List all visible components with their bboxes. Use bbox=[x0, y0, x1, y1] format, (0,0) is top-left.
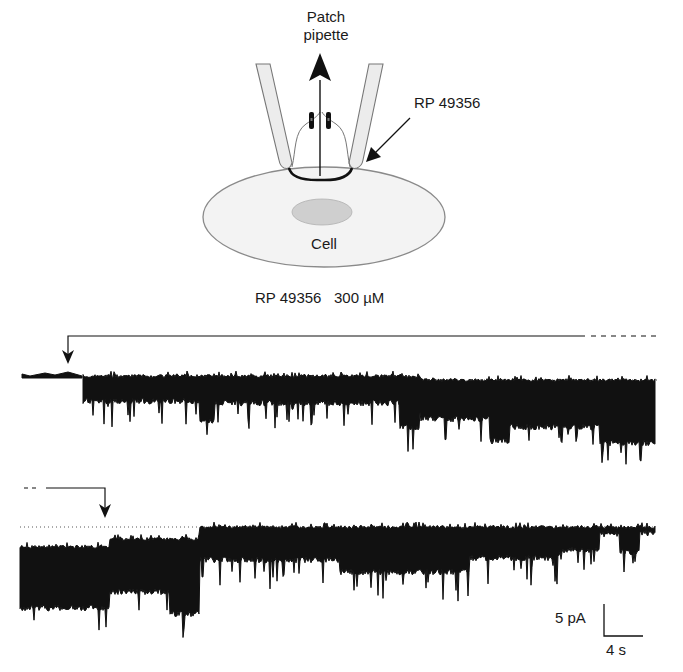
pipette-label-line2: pipette bbox=[290, 26, 362, 43]
cell-label: Cell bbox=[294, 235, 354, 252]
pipette-left-wall bbox=[256, 64, 292, 168]
drug-concentration-label: RP 49356 300 µM bbox=[255, 289, 384, 306]
compound-label: RP 49356 bbox=[414, 94, 480, 111]
membrane-patch-outline bbox=[292, 112, 350, 167]
pipette-right-wall bbox=[349, 64, 383, 168]
drug-application-marker bbox=[62, 336, 656, 364]
compound-pointer-line bbox=[375, 118, 410, 153]
cell-nucleus bbox=[292, 199, 352, 225]
drug-continuation-marker bbox=[24, 488, 111, 518]
current-trace-1 bbox=[22, 371, 660, 464]
pipette-label-line1: Patch bbox=[296, 8, 356, 25]
scale-bar bbox=[604, 604, 643, 636]
up-arrow-icon bbox=[309, 53, 331, 81]
figure-canvas bbox=[0, 0, 683, 672]
scale-time-label: 4 s bbox=[606, 641, 626, 658]
scale-current-label: 5 pA bbox=[555, 609, 586, 626]
